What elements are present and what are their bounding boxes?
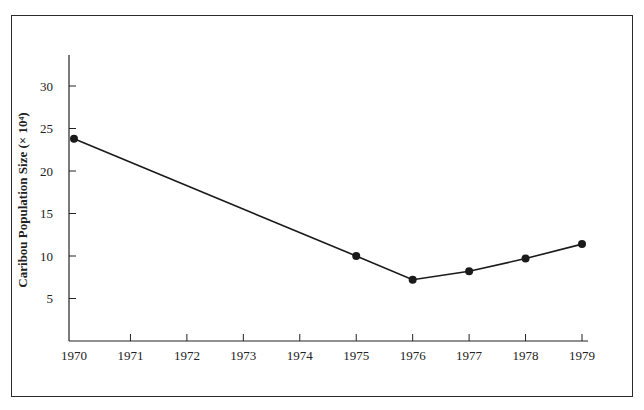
x-tick-label: 1971	[117, 348, 143, 363]
data-point-marker	[522, 255, 530, 263]
x-tick-label: 1975	[343, 348, 369, 363]
y-tick-label: 15	[40, 206, 53, 221]
data-point-marker	[578, 240, 586, 248]
y-tick-label: 20	[40, 164, 53, 179]
x-tick-label: 1976	[400, 348, 427, 363]
x-tick-label: 1974	[287, 348, 314, 363]
data-point-marker	[70, 135, 78, 143]
data-point-marker	[409, 276, 417, 284]
y-tick-label: 10	[40, 249, 53, 264]
x-tick-label: 1973	[230, 348, 256, 363]
data-series	[70, 135, 586, 284]
x-tick-label: 1972	[174, 348, 200, 363]
data-point-marker	[352, 252, 360, 260]
x-axis-ticks: 1970197119721973197419751976197719781979	[61, 334, 595, 363]
line-chart: 51015202530 1970197119721973197419751976…	[0, 0, 644, 410]
chart-axes	[69, 55, 588, 341]
x-tick-label: 1979	[569, 348, 595, 363]
data-point-marker	[465, 267, 473, 275]
y-axis-title: Caribou Population Size (× 10⁴)	[15, 112, 30, 287]
series-line	[74, 139, 582, 280]
x-tick-label: 1977	[456, 348, 483, 363]
y-tick-label: 5	[47, 291, 54, 306]
y-axis-ticks: 51015202530	[40, 79, 76, 307]
y-tick-label: 30	[40, 79, 53, 94]
x-tick-label: 1978	[513, 348, 539, 363]
x-tick-label: 1970	[61, 348, 87, 363]
y-tick-label: 25	[40, 121, 53, 136]
